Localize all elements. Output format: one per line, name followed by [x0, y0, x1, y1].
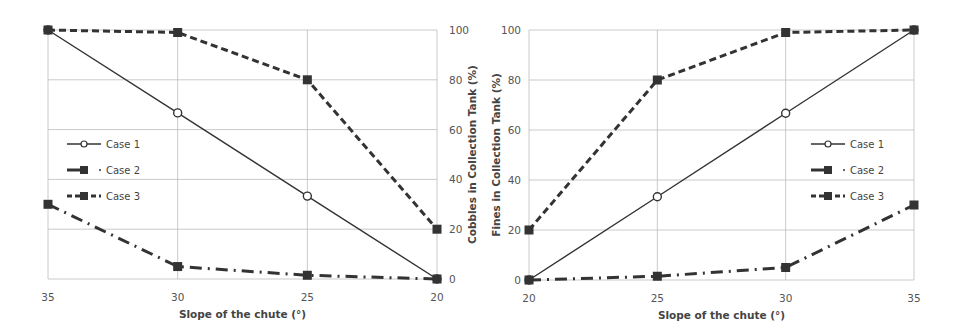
x-tick-label: 35 — [907, 292, 920, 304]
data-point-marker — [653, 272, 662, 281]
y-axis-title: Fines in Collection Tank (%) — [490, 73, 502, 237]
data-point-marker — [173, 262, 182, 271]
legend-dot — [843, 169, 845, 171]
legend-label: Case 2 — [850, 165, 884, 176]
data-point-marker — [44, 26, 53, 35]
data-point-marker — [44, 200, 53, 209]
data-point-marker — [781, 263, 790, 272]
data-point-marker — [433, 225, 442, 234]
x-tick-label: 30 — [779, 292, 792, 304]
y-tick-label: 0 — [449, 273, 456, 285]
x-tick-label: 20 — [522, 292, 535, 304]
legend: Case 1Case 2Case 3 — [67, 139, 140, 202]
legend-marker-icon — [80, 166, 88, 174]
data-point-marker — [782, 109, 790, 117]
data-point-marker — [910, 201, 919, 210]
y-tick-label: 100 — [449, 24, 469, 36]
y-tick-label: 60 — [508, 124, 521, 136]
legend-item: Case 1 — [811, 139, 884, 150]
x-axis-title: Slope of the chute (°) — [179, 308, 306, 320]
y-axis-title: Cobbles in Collection Tank (%) — [466, 65, 478, 244]
y-tick-label: 80 — [508, 74, 521, 86]
legend-marker-icon — [80, 192, 88, 200]
y-tick-label: 20 — [508, 224, 521, 236]
legend: Case 1Case 2Case 3 — [811, 139, 884, 202]
data-point-marker — [174, 109, 182, 117]
data-point-marker — [525, 226, 534, 235]
legend-marker-icon — [824, 166, 832, 174]
y-tick-label: 60 — [449, 124, 462, 136]
legend-label: Case 3 — [850, 191, 884, 202]
legend-item: Case 2 — [811, 165, 884, 176]
series-line-case-1 — [529, 30, 914, 280]
x-tick-label: 35 — [41, 291, 54, 303]
data-point-marker — [653, 76, 662, 85]
data-point-marker — [910, 26, 919, 35]
legend-marker-icon — [824, 192, 832, 200]
fines-chart: 02040608010020253035Slope of the chute (… — [490, 24, 921, 321]
data-point-marker — [303, 192, 311, 200]
x-axis-title: Slope of the chute (°) — [658, 309, 785, 321]
data-point-marker — [433, 275, 442, 284]
legend-label: Case 1 — [106, 139, 140, 150]
cobbles-chart: 02040608010035302520Slope of the chute (… — [41, 24, 478, 320]
data-point-marker — [173, 28, 182, 37]
legend-marker-icon — [81, 141, 87, 147]
y-tick-label: 80 — [449, 74, 462, 86]
legend-item: Case 3 — [67, 191, 140, 202]
legend-item: Case 3 — [811, 191, 884, 202]
y-tick-label: 0 — [514, 274, 521, 286]
x-tick-label: 25 — [301, 291, 314, 303]
legend-label: Case 2 — [106, 165, 140, 176]
data-point-marker — [303, 75, 312, 84]
legend-label: Case 1 — [850, 139, 884, 150]
legend-marker-icon — [825, 141, 831, 147]
series-line-case-1 — [48, 30, 437, 279]
x-tick-label: 20 — [430, 291, 443, 303]
data-point-marker — [781, 28, 790, 37]
x-tick-label: 30 — [171, 291, 184, 303]
x-tick-label: 25 — [651, 292, 664, 304]
data-point-marker — [653, 193, 661, 201]
y-tick-label: 100 — [501, 24, 521, 36]
y-tick-label: 20 — [449, 223, 462, 235]
data-point-marker — [303, 271, 312, 280]
legend-label: Case 3 — [106, 191, 140, 202]
y-tick-label: 40 — [449, 173, 462, 185]
legend-item: Case 1 — [67, 139, 140, 150]
y-tick-label: 40 — [508, 174, 521, 186]
chart-canvas: 02040608010035302520Slope of the chute (… — [0, 0, 956, 335]
legend-dot — [99, 169, 101, 171]
legend-item: Case 2 — [67, 165, 140, 176]
data-point-marker — [525, 276, 534, 285]
